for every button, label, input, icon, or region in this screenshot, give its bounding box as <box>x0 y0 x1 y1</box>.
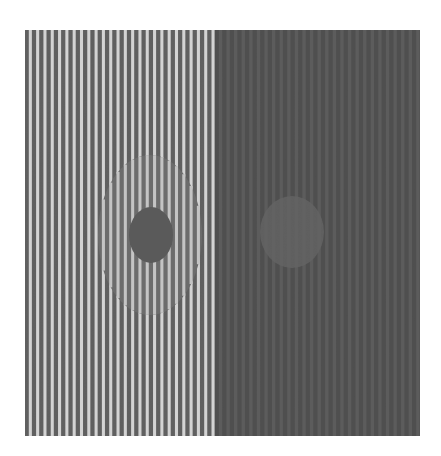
noise-texture <box>25 30 420 436</box>
illusion-figure <box>0 0 441 456</box>
